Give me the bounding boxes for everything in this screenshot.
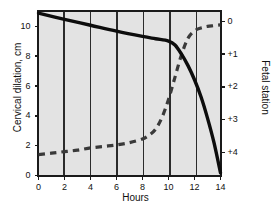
y-left-tick-label: 10 xyxy=(1,22,31,31)
y-right-tick-label: 0 xyxy=(228,17,250,26)
x-tick-label: 14 xyxy=(209,183,233,192)
x-tickmark xyxy=(194,176,196,180)
curves-layer xyxy=(0,0,271,211)
y-left-tick-label: 2 xyxy=(1,141,31,150)
y-left-tick-label: 4 xyxy=(1,111,31,120)
x-tick-label: 8 xyxy=(131,183,155,192)
x-tick-label: 6 xyxy=(105,183,129,192)
y-right-tick-label: +1 xyxy=(228,50,250,59)
chart-figure: Hours Cervical dilation, cm Fetal statio… xyxy=(0,0,271,211)
y-right-tickmark xyxy=(221,119,225,121)
x-tickmark xyxy=(220,176,222,180)
y-left-tick-label: 6 xyxy=(1,82,31,91)
x-axis-label: Hours xyxy=(0,192,271,203)
y-right-tick-label: +2 xyxy=(228,82,250,91)
series-cervical-dilation xyxy=(39,25,221,155)
y-right-tick-label: +4 xyxy=(228,148,250,157)
x-tick-label: 2 xyxy=(53,183,77,192)
x-tickmark xyxy=(90,176,92,180)
y-left-tickmark xyxy=(35,145,39,147)
y-axis-right-label: Fetal station xyxy=(260,23,271,153)
y-right-tickmark xyxy=(221,53,225,55)
y-right-tick-label: +3 xyxy=(228,115,250,124)
y-left-tickmark xyxy=(35,85,39,87)
y-left-tickmark xyxy=(35,115,39,117)
y-left-tick-label: 0 xyxy=(1,171,31,180)
x-tick-label: 4 xyxy=(79,183,103,192)
x-tickmark xyxy=(168,176,170,180)
x-tickmark xyxy=(142,176,144,180)
y-left-tickmark xyxy=(35,26,39,28)
y-right-tickmark xyxy=(221,152,225,154)
x-tickmark xyxy=(116,176,118,180)
x-tick-label: 0 xyxy=(27,183,51,192)
x-tick-label: 10 xyxy=(157,183,181,192)
y-left-tickmark xyxy=(35,55,39,57)
y-right-tickmark xyxy=(221,86,225,88)
y-left-tickmark xyxy=(35,175,39,177)
y-left-tick-label: 8 xyxy=(1,52,31,61)
x-tickmark xyxy=(64,176,66,180)
series-fetal-station xyxy=(39,13,221,173)
x-tick-label: 12 xyxy=(183,183,207,192)
y-right-tickmark xyxy=(221,21,225,23)
